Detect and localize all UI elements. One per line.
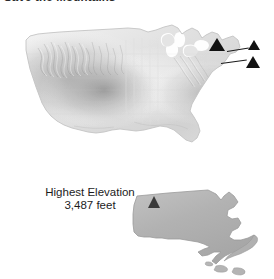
triangle-icon-secondary-2 [246, 56, 260, 68]
triangle-icon-primary [209, 38, 225, 51]
poster-canvas: Save the Mountains [0, 0, 274, 279]
massachusetts-inset-map [128, 186, 274, 279]
united-states-map [14, 18, 264, 168]
triangle-icon-secondary-1 [248, 40, 260, 50]
page-title: Save the Mountains [4, 0, 116, 3]
